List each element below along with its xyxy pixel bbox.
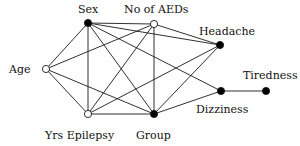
node-label-dizziness: Dizziness <box>196 104 248 116</box>
node-aeds <box>150 20 157 27</box>
node-label-headache: Headache <box>199 26 255 38</box>
node-label-no-of-aeds: No of AEDs <box>124 4 188 16</box>
edge-age-yrs <box>46 69 88 114</box>
node-headache <box>216 41 223 48</box>
node-yrs <box>84 110 91 117</box>
node-label-tiredness: Tiredness <box>243 70 298 82</box>
node-group <box>150 110 157 117</box>
node-age <box>42 65 49 72</box>
node-label-sex: Sex <box>78 4 98 16</box>
node-tiredness <box>262 87 269 94</box>
node-label-age: Age <box>9 64 31 76</box>
node-dizziness <box>217 87 224 94</box>
node-sex <box>84 19 91 26</box>
node-label-group: Group <box>136 130 171 142</box>
edge-sex-aeds <box>88 23 154 24</box>
edge-sex-age <box>46 23 88 69</box>
graph-diagram: Sex No of AEDs Headache Age Yrs Epilepsy… <box>0 0 300 146</box>
node-label-yrs-epilepsy: Yrs Epilepsy <box>45 130 114 142</box>
